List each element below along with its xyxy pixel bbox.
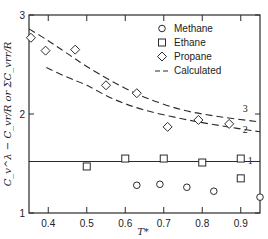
curve-label-1: 1 <box>248 155 253 166</box>
x-tick-label: 0.4 <box>41 218 55 229</box>
propane-point <box>163 122 172 131</box>
legend-square-icon <box>159 39 166 46</box>
plot-frame <box>29 15 260 213</box>
methane-point <box>184 184 191 191</box>
x-axis-title: T* <box>137 226 149 237</box>
x-tick-label: 0.9 <box>234 218 248 229</box>
y-tick-label: 1 <box>19 208 25 219</box>
legend-label: Propane <box>174 51 212 62</box>
ethane-point <box>199 159 206 166</box>
y-tick-label: 3 <box>19 10 25 21</box>
legend-diamond-icon <box>158 52 167 61</box>
data-markers <box>26 33 263 200</box>
ethane-point <box>83 163 90 170</box>
propane-point <box>41 46 50 55</box>
propane-point <box>71 45 80 54</box>
propane-point <box>132 89 141 98</box>
methane-point <box>257 194 264 201</box>
calculated-curves <box>29 29 260 162</box>
curve-label-3: 3 <box>243 103 248 114</box>
legend-label: Ethane <box>174 37 206 48</box>
ethane-point <box>122 155 129 162</box>
legend: MethaneEthanePropaneCalculated <box>155 23 221 76</box>
y-tick-label: 2 <box>19 109 25 120</box>
methane-point <box>134 182 141 189</box>
x-axis-ticks: 0.40.50.60.70.80.9 <box>41 15 248 229</box>
methane-point <box>211 188 218 195</box>
ethane-point <box>237 155 244 162</box>
propane-point <box>194 115 203 124</box>
x-tick-label: 0.5 <box>80 218 94 229</box>
curve-3 <box>29 29 260 122</box>
chart: 0.40.50.60.70.80.9 123 321 MethaneEthane… <box>0 0 268 239</box>
x-tick-label: 0.8 <box>195 218 209 229</box>
x-tick-label: 0.7 <box>157 218 171 229</box>
methane-point <box>157 181 164 188</box>
propane-point <box>26 33 35 42</box>
legend-label: Methane <box>174 23 213 34</box>
ethane-point <box>237 175 244 182</box>
y-axis-title: C_v^λ − C_vr/R or ΣC_vrr/R <box>2 41 14 186</box>
ethane-point <box>160 155 167 162</box>
legend-circle-icon <box>159 25 166 32</box>
plot-border <box>29 15 260 213</box>
propane-point <box>102 81 111 90</box>
x-tick-label: 0.6 <box>118 218 132 229</box>
legend-label: Calculated <box>174 65 221 76</box>
curve-label-2: 2 <box>243 124 248 135</box>
